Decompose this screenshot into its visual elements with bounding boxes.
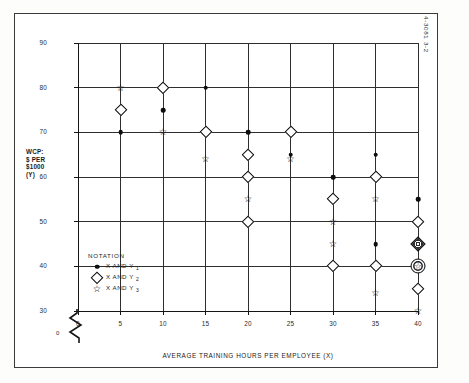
open-star-icon: [329, 239, 337, 248]
legend-item-y2: X AND Y 2: [88, 272, 204, 283]
open-star-icon: [159, 128, 167, 137]
y-tick-label: 90: [23, 39, 47, 46]
open-star-icon: [88, 283, 106, 294]
filled-circle-icon: [88, 261, 106, 272]
x-gridline: [290, 43, 291, 311]
y-tick-label: 40: [23, 262, 47, 269]
filled-circle-icon: [203, 85, 208, 90]
x-tick: [290, 311, 291, 315]
x-tick: [375, 311, 376, 315]
filled-circle-icon: [118, 130, 123, 135]
open-diamond-icon: [242, 148, 255, 161]
open-star-icon: [286, 154, 294, 163]
y-axis-title-line-1: WCP:: [26, 148, 74, 156]
x-tick: [78, 311, 79, 315]
legend: NOTATION X AND Y 1 X AND Y 2 X AND Y 3: [88, 252, 204, 294]
x-tick-label: 40: [406, 320, 430, 327]
x-tick: [120, 311, 121, 315]
open-star-icon: [371, 195, 379, 204]
y-tick-label: 60: [23, 173, 47, 180]
filled-circle-icon: [416, 197, 421, 202]
x-gridline: [78, 43, 80, 311]
open-star-icon: [244, 195, 252, 204]
open-star-icon: [116, 83, 124, 92]
x-tick: [205, 311, 206, 315]
y-tick-label: 70: [23, 128, 47, 135]
legend-title: NOTATION: [88, 252, 204, 259]
x-tick-label: 30: [321, 320, 345, 327]
open-diamond-icon: [157, 81, 170, 94]
x-tick: [248, 311, 249, 315]
figure-container: 4-3081 3-2 WCP: $ PER $1000 (Y) 0 AVERAG…: [0, 0, 469, 383]
legend-item-y3: X AND Y 3: [88, 283, 204, 294]
x-tick-label: 0: [66, 320, 90, 327]
x-tick: [333, 311, 334, 315]
open-diamond-icon: [284, 126, 297, 139]
filled-circle-icon: [246, 130, 251, 135]
x-gridline: [205, 43, 206, 311]
open-diamond-icon: [199, 126, 212, 139]
y-tick-label: 30: [23, 307, 47, 314]
filled-circle-icon: [373, 242, 378, 247]
open-diamond-icon: [114, 104, 127, 117]
x-tick: [163, 311, 164, 315]
open-star-icon: [201, 154, 209, 163]
y-axis-title-line-2: $ PER: [26, 156, 74, 164]
open-diamond-icon: [369, 171, 382, 184]
x-tick-label: 5: [109, 320, 133, 327]
open-star-icon: [414, 306, 422, 315]
x-tick-label: 15: [194, 320, 218, 327]
filled-circle-icon: [161, 108, 166, 113]
figure-number: 4-3081 3-2: [423, 16, 430, 76]
x-tick-label: 10: [151, 320, 175, 327]
filled-circle-icon: [373, 152, 378, 157]
open-star-icon: [371, 288, 379, 297]
open-diamond-icon: [369, 260, 382, 273]
x-tick-label: 35: [364, 320, 388, 327]
x-axis-title: AVERAGE TRAINING HOURS PER EMPLOYEE (X): [78, 352, 418, 359]
open-diamond-icon: [327, 260, 340, 273]
open-star-icon: [329, 217, 337, 226]
filled-circle-icon: [331, 175, 336, 180]
legend-item-y1: X AND Y 1: [88, 261, 204, 272]
y-tick-label: 80: [23, 84, 47, 91]
y-tick-label: 50: [23, 218, 47, 225]
x-tick-label: 20: [236, 320, 260, 327]
open-diamond-icon: [88, 272, 106, 283]
origin-label: 0: [56, 330, 59, 336]
x-tick-label: 25: [279, 320, 303, 327]
legend-label-y3: X AND Y 3: [106, 284, 139, 293]
open-diamond-icon: [242, 215, 255, 228]
open-diamond-icon: [327, 193, 340, 206]
legend-label-y1: X AND Y 1: [106, 262, 139, 271]
y-axis-title-line-3: $1000: [26, 163, 74, 171]
legend-label-y2: X AND Y 2: [106, 273, 139, 282]
open-diamond-icon: [242, 171, 255, 184]
open-diamond-icon: [411, 259, 426, 274]
